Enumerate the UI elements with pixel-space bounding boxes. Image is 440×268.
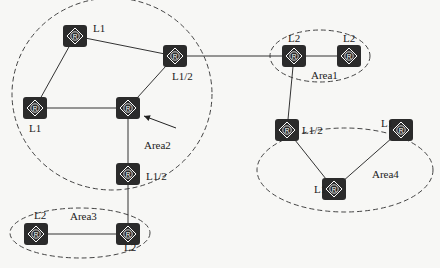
router-level-label: L2 [34,209,46,221]
router-glyph: R [34,231,39,238]
router-glyph: R [126,105,131,112]
router-level-label: L2 [343,32,355,44]
router-level-label: L1 [29,122,41,134]
router-level-label: L2 [288,32,300,44]
router-r5[interactable]: RL1/2 [116,163,167,185]
router-glyph: R [73,33,78,40]
area-label: Area3 [70,210,97,222]
router-r4[interactable]: R [116,97,140,119]
router-glyph: R [347,53,352,60]
router-level-label: L1/2 [172,70,193,82]
router-r6[interactable]: RL2 [24,209,48,245]
pointer-arrow-icon [144,115,176,128]
link-r8-r10 [287,56,294,130]
router-glyph: R [126,171,131,178]
router-r3[interactable]: RL1 [23,97,47,134]
router-level-label: L1 [314,183,326,195]
router-r9[interactable]: RL2 [337,32,361,67]
router-glyph: R [285,127,290,134]
diagram-canvas: Area1Area2Area3Area4RL1RL1/2RL1RRL1/2RL2… [0,0,440,268]
router-glyph: R [33,105,38,112]
router-glyph: R [399,127,404,134]
router-glyph: R [173,53,178,60]
router-level-label: L1 [381,117,393,129]
area-label: Area1 [311,69,338,81]
router-level-label: L1/2 [146,170,167,182]
router-level-label: L2 [124,241,136,253]
router-r1[interactable]: RL1 [63,22,105,47]
router-r7[interactable]: RL2 [116,223,140,253]
router-glyph: R [126,231,131,238]
router-r10[interactable]: RL1/2 [275,119,323,141]
area-label: Area4 [372,168,399,180]
link-r1-r2 [75,36,175,56]
router-glyph: R [292,53,297,60]
router-r11[interactable]: RL1 [381,117,413,141]
router-glyph: R [332,186,337,193]
network-topology-diagram: Area1Area2Area3Area4RL1RL1/2RL1RRL1/2RL2… [0,0,440,268]
router-r12[interactable]: RL1 [314,178,346,200]
router-level-label: L1 [93,22,105,34]
area-label: Area2 [144,139,171,151]
router-r2[interactable]: RL1/2 [163,45,193,82]
router-level-label: L1/2 [302,124,323,136]
